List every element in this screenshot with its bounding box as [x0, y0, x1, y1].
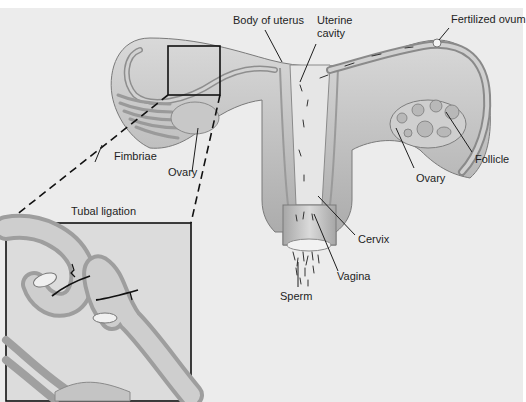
label-follicle: Follicle: [475, 153, 509, 165]
label-cervix: Cervix: [358, 233, 389, 245]
label-fertilized-ovum: Fertilized ovum: [451, 13, 526, 25]
tubal-ligation-inset: [6, 223, 191, 401]
label-ovary-right: Ovary: [416, 172, 445, 184]
label-body-of-uterus: Body of uterus: [233, 14, 304, 26]
label-ovary-left: Ovary: [168, 166, 197, 178]
label-sperm: Sperm: [280, 290, 312, 302]
inset-title: Tubal ligation: [71, 205, 136, 217]
label-vagina: Vagina: [337, 270, 370, 282]
label-fimbriae: Fimbriae: [114, 150, 157, 162]
label-uterine-cavity-1: Uterine: [317, 14, 352, 26]
label-uterine-cavity-2: cavity: [317, 27, 345, 39]
